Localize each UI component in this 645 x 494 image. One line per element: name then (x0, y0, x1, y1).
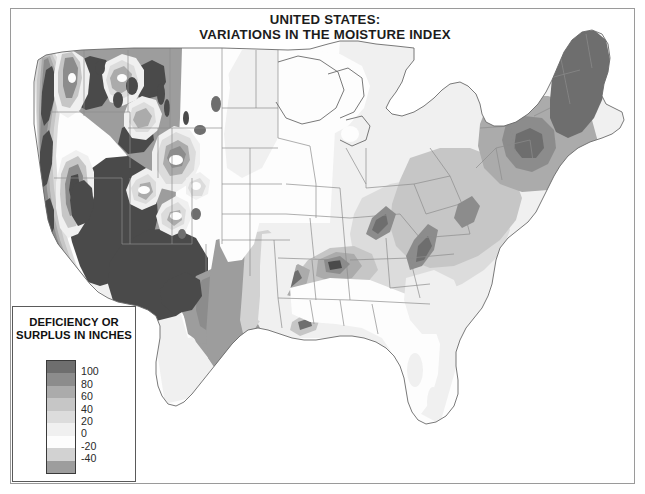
legend-swatch (47, 386, 75, 398)
legend-swatch (47, 423, 75, 435)
legend-swatch (47, 361, 75, 373)
legend-label: 40 (81, 404, 93, 415)
legend-scale: 100806040200-20-40 (46, 360, 130, 474)
legend-label: -20 (81, 441, 96, 452)
legend-label: 100 (81, 366, 99, 377)
legend-label: -40 (81, 453, 96, 464)
legend-label: 20 (81, 416, 93, 427)
map-legend: DEFICIENCY OR SURPLUS IN INCHES 10080604… (12, 306, 136, 482)
legend-swatch (47, 461, 75, 473)
legend-title-line-1: DEFICIENCY OR (13, 316, 135, 329)
legend-swatch-column (46, 360, 76, 474)
legend-title: DEFICIENCY OR SURPLUS IN INCHES (13, 316, 135, 343)
legend-title-line-2: SURPLUS IN INCHES (13, 329, 135, 342)
figure-root: UNITED STATES: VARIATIONS IN THE MOISTUR… (0, 0, 645, 494)
legend-swatch (47, 436, 75, 448)
legend-swatch (47, 411, 75, 423)
legend-swatch (47, 398, 75, 410)
legend-label: 80 (81, 379, 93, 390)
legend-swatch (47, 373, 75, 385)
legend-label: 60 (81, 391, 93, 402)
legend-label-column: 100806040200-20-40 (81, 360, 129, 474)
legend-label: 0 (81, 428, 87, 439)
legend-swatch (47, 448, 75, 460)
